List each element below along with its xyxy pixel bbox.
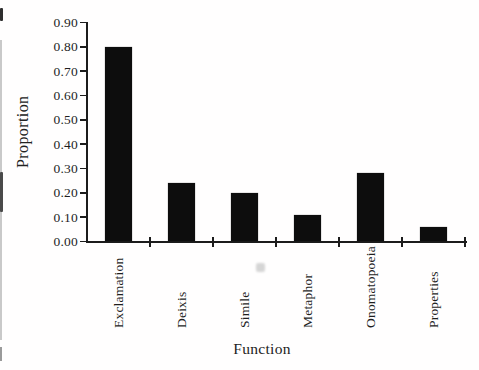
category-label: Deixis xyxy=(174,292,190,328)
scan-artifact xyxy=(256,263,265,272)
x-tick xyxy=(464,237,466,247)
y-tick xyxy=(80,241,87,243)
category-label: Properties xyxy=(426,271,442,328)
y-tick-label: 0.30 xyxy=(38,160,78,177)
x-tick xyxy=(401,237,403,247)
y-tick xyxy=(80,119,87,121)
y-axis-line xyxy=(86,22,88,243)
scan-artifact xyxy=(0,8,3,21)
y-axis-title: Proportion xyxy=(14,96,31,168)
x-tick xyxy=(275,237,277,247)
scan-artifact xyxy=(0,172,3,212)
y-tick xyxy=(80,192,87,194)
y-tick-label: 0.40 xyxy=(38,136,78,153)
bar xyxy=(105,47,132,242)
bar xyxy=(231,193,258,242)
category-label: Onomatopoeia xyxy=(363,246,379,328)
y-tick xyxy=(80,46,87,48)
x-axis-title: Function xyxy=(212,340,312,358)
y-tick-label: 0.60 xyxy=(38,87,78,104)
category-label: Exclamation xyxy=(111,258,127,328)
y-tick-label: 0.10 xyxy=(38,209,78,226)
x-tick xyxy=(338,237,340,247)
y-tick xyxy=(80,70,87,72)
y-tick-label: 0.90 xyxy=(38,14,78,31)
y-tick-label: 0.70 xyxy=(38,63,78,80)
bar xyxy=(420,227,447,242)
scan-artifact xyxy=(0,347,2,361)
bar xyxy=(357,173,384,241)
y-tick-label: 0.80 xyxy=(38,38,78,55)
y-tick-label: 0.00 xyxy=(38,233,78,250)
y-tick-label: 0.50 xyxy=(38,111,78,128)
x-tick xyxy=(149,237,151,247)
category-label: Metaphor xyxy=(300,274,316,328)
y-tick xyxy=(80,22,87,24)
x-tick xyxy=(212,237,214,247)
y-tick xyxy=(80,168,87,170)
y-tick xyxy=(80,216,87,218)
bar xyxy=(294,215,321,242)
y-tick-label: 0.20 xyxy=(38,184,78,201)
bar-chart: Proportion Function 0.000.100.200.300.40… xyxy=(0,0,479,370)
y-tick xyxy=(80,95,87,97)
category-label: Simile xyxy=(237,292,253,328)
y-tick xyxy=(80,143,87,145)
bar xyxy=(168,183,195,241)
